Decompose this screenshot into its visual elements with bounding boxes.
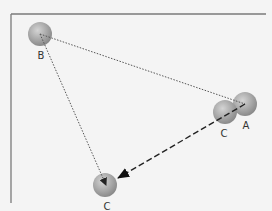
node-b-label: B: [38, 51, 45, 61]
node-c-right-label: C: [221, 129, 228, 139]
node-c-bottom-label: C: [104, 202, 111, 211]
diagram-canvas: [0, 0, 272, 211]
edge-a-to-c-dashed-arrow: [118, 104, 245, 178]
edge-b-to-c-dotted-arrow: [40, 34, 106, 185]
node-c-bottom-sphere[interactable]: [93, 173, 117, 197]
node-a-label: A: [243, 121, 250, 131]
edge-b-to-a-dotted: [40, 34, 245, 104]
